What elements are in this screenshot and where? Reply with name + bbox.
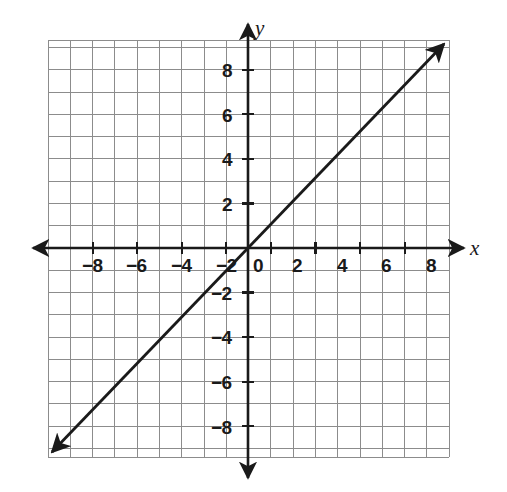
x-tick-label--6: −6 xyxy=(126,256,147,275)
graph-canvas xyxy=(0,0,507,492)
x-tick-label-4: 4 xyxy=(337,256,347,275)
x-tick-label-6: 6 xyxy=(381,256,391,275)
coordinate-plane-figure: −8 −6 −4 −2 0 2 4 6 8 8 6 4 2 −2 −4 −6 −… xyxy=(0,0,507,492)
y-tick-label--6: −6 xyxy=(211,373,232,392)
y-tick-label--4: −4 xyxy=(211,328,232,347)
y-tick-label--8: −8 xyxy=(211,418,232,437)
x-axis-label: x xyxy=(470,238,479,259)
y-axis-label: y xyxy=(255,18,264,39)
y-tick-label-8: 8 xyxy=(222,61,232,80)
x-tick-label-0: 0 xyxy=(253,256,263,275)
y-tick-label--2: −2 xyxy=(211,284,232,303)
y-tick-label-2: 2 xyxy=(222,195,232,214)
x-tick-label--4: −4 xyxy=(171,256,192,275)
y-tick-label-6: 6 xyxy=(222,106,232,125)
x-tick-label--2: −2 xyxy=(216,256,237,275)
x-tick-label-2: 2 xyxy=(292,256,302,275)
x-tick-label--8: −8 xyxy=(82,256,103,275)
x-tick-label-8: 8 xyxy=(426,256,436,275)
y-tick-label-4: 4 xyxy=(222,150,232,169)
